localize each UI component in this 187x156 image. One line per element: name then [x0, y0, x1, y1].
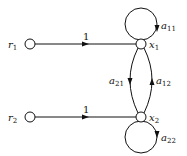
node-label-r2: r2 — [8, 112, 17, 125]
edge-gain-r1-x1: 1 — [83, 31, 89, 42]
edge-x2-x1: a12 — [144, 48, 171, 113]
node-label-x1: x1 — [149, 39, 159, 52]
edge-r1-x1: 1 — [35, 31, 136, 47]
node-r2: r2 — [8, 112, 35, 125]
arrow-icon — [128, 78, 133, 85]
self-loop-x1: a11 — [125, 8, 176, 40]
edge-gain-r2-x2: 1 — [83, 104, 89, 115]
signal-flow-graph: 1 1 a21 a12 a11 a22 r1 r2 x1 — [0, 0, 187, 156]
self-loop-x2: a22 — [125, 121, 176, 153]
node-x2: x2 — [136, 112, 159, 125]
node-x1: x1 — [136, 39, 159, 52]
edge-label-a22: a22 — [161, 132, 176, 145]
edge-r2-x2: 1 — [35, 104, 136, 120]
edge-label-a12: a12 — [156, 75, 171, 88]
arrow-icon — [82, 42, 89, 47]
node-label-x2: x2 — [149, 112, 159, 125]
arrow-icon — [150, 78, 155, 85]
node-label-r1: r1 — [8, 39, 17, 52]
edge-label-a11: a11 — [161, 20, 176, 33]
node-r1: r1 — [8, 39, 35, 52]
edge-label-a21: a21 — [109, 75, 124, 88]
arrow-icon — [155, 131, 160, 138]
arrow-icon — [82, 115, 89, 120]
edge-x1-x2: a21 — [109, 48, 138, 113]
